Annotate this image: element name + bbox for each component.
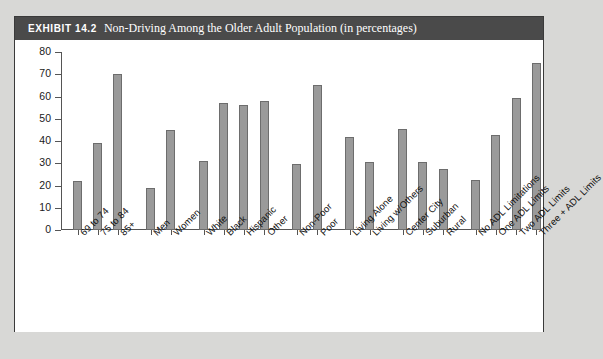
bar bbox=[73, 181, 82, 230]
y-axis-tick-label: 70 bbox=[39, 67, 51, 80]
exhibit-panel: EXHIBIT 14.2 Non-Driving Among the Older… bbox=[14, 16, 544, 332]
y-axis-tick-label: 40 bbox=[39, 134, 51, 147]
bar bbox=[166, 130, 175, 230]
y-axis-tick-label: 30 bbox=[39, 156, 51, 169]
bar bbox=[292, 164, 301, 230]
exhibit-header: EXHIBIT 14.2 Non-Driving Among the Older… bbox=[15, 17, 543, 40]
y-axis-tick-label: 60 bbox=[39, 90, 51, 103]
y-axis-tick-label: 10 bbox=[39, 201, 51, 214]
bar bbox=[146, 188, 155, 230]
x-axis-labels: 69 to 7475 to 8485+MenWomenWhiteBlackHis… bbox=[61, 230, 531, 330]
y-axis-tick-label: 80 bbox=[39, 45, 51, 58]
bar bbox=[239, 105, 248, 230]
bar bbox=[219, 103, 228, 230]
bar bbox=[199, 161, 208, 230]
exhibit-number: EXHIBIT 14.2 bbox=[28, 23, 97, 34]
chart-plot-area: 01020304050607080 69 to 7475 to 8485+Men… bbox=[15, 40, 543, 332]
bar bbox=[471, 180, 480, 230]
exhibit-title: Non-Driving Among the Older Adult Popula… bbox=[104, 21, 417, 36]
y-axis-tick-label: 50 bbox=[39, 112, 51, 125]
y-axis-tick-label: 20 bbox=[39, 179, 51, 192]
y-axis-tick-label: 0 bbox=[45, 223, 51, 236]
bar bbox=[345, 137, 354, 230]
